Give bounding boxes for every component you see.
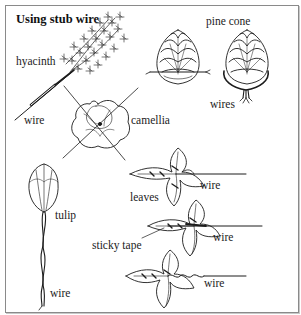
- label-hyacinth-wire: wire: [24, 115, 44, 127]
- label-hyacinth: hyacinth: [16, 56, 56, 68]
- label-leaf-1-wire: wire: [200, 180, 220, 192]
- leaf-2-illustration: [142, 200, 262, 256]
- label-tulip: tulip: [55, 210, 76, 222]
- pine-cone-right-illustration: [224, 30, 269, 103]
- camellia-illustration: [63, 86, 138, 160]
- label-leaf-3-wire: wire: [204, 278, 224, 290]
- label-pine-cone-wires: wires: [210, 99, 235, 111]
- label-leaves: leaves: [130, 192, 159, 204]
- pine-cone-left-illustration: [146, 30, 210, 84]
- figure-title: Using stub wire: [16, 12, 99, 27]
- label-pine-cone: pine cone: [206, 16, 250, 28]
- illustration-canvas: [0, 0, 301, 315]
- label-leaf-2-wire: wire: [213, 232, 233, 244]
- label-tulip-wire: wire: [50, 288, 70, 300]
- leaf-3-illustration: [126, 250, 246, 308]
- label-sticky-tape: sticky tape: [92, 240, 142, 252]
- label-camellia: camellia: [131, 115, 170, 127]
